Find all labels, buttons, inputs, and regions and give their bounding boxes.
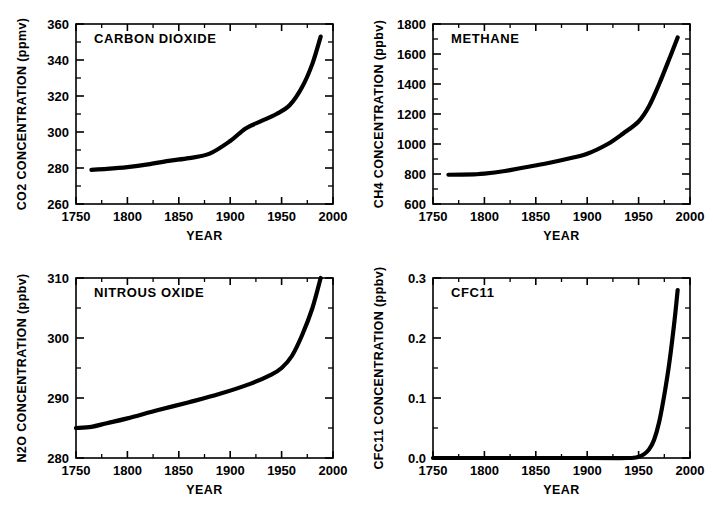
panel-title: CFC11 — [451, 285, 494, 300]
x-tick-label: 2000 — [319, 209, 348, 224]
y-tick-label: 1800 — [397, 17, 426, 32]
x-tick-label: 1850 — [164, 463, 193, 478]
x-axis-title: YEAR — [543, 229, 579, 243]
y-tick-label: 1000 — [397, 137, 426, 152]
x-axis-title: YEAR — [186, 229, 222, 243]
x-tick-label: 1800 — [470, 209, 499, 224]
panel-methane: 1750180018501900195020006008001000120014… — [357, 0, 713, 253]
x-axis-title: YEAR — [186, 483, 222, 497]
plot-frame — [433, 278, 690, 458]
y-tick-label: 0.2 — [408, 331, 426, 346]
x-tick-label: 2000 — [676, 209, 705, 224]
greenhouse-gas-figure: 1750180018501900195020002602803003203403… — [0, 0, 713, 507]
data-curve-co2 — [91, 37, 320, 170]
x-tick-label: 1900 — [573, 463, 602, 478]
plot-nitrous-oxide: 175018001850190019502000280290300310NITR… — [0, 254, 356, 507]
y-axis-title: N2O CONCENTRATION (ppbv) — [15, 273, 29, 462]
x-tick-label: 1850 — [521, 463, 550, 478]
y-tick-label: 310 — [47, 271, 69, 286]
panel-title: METHANE — [451, 31, 519, 46]
y-tick-label: 280 — [47, 161, 69, 176]
x-axis-title: YEAR — [543, 483, 579, 497]
data-curve-cfc11 — [433, 290, 678, 458]
panel-title: NITROUS OXIDE — [94, 285, 204, 300]
x-tick-label: 1850 — [521, 209, 550, 224]
x-tick-label: 1800 — [470, 463, 499, 478]
y-axis-title: CH4 CONCENTRATION (ppbv) — [372, 20, 386, 209]
data-curve-ch4 — [448, 38, 677, 175]
x-tick-label: 1850 — [164, 209, 193, 224]
plot-cfc11: 1750180018501900195020000.00.10.20.3CFC1… — [357, 254, 713, 507]
y-tick-label: 320 — [47, 89, 69, 104]
y-tick-label: 360 — [47, 17, 69, 32]
x-tick-label: 1900 — [216, 463, 245, 478]
y-tick-label: 1200 — [397, 107, 426, 122]
y-tick-label: 800 — [404, 167, 426, 182]
y-tick-label: 260 — [47, 197, 69, 212]
y-tick-label: 300 — [47, 125, 69, 140]
y-tick-label: 300 — [47, 331, 69, 346]
plot-frame — [76, 278, 333, 458]
x-tick-label: 1800 — [113, 463, 142, 478]
y-tick-label: 0.0 — [408, 451, 426, 466]
x-tick-label: 1900 — [216, 209, 245, 224]
y-tick-label: 0.3 — [408, 271, 426, 286]
data-curve-n2o — [76, 278, 321, 428]
x-tick-label: 2000 — [319, 463, 348, 478]
x-tick-label: 1900 — [573, 209, 602, 224]
y-tick-label: 1400 — [397, 77, 426, 92]
y-tick-label: 0.1 — [408, 391, 426, 406]
x-tick-label: 1950 — [624, 463, 653, 478]
y-tick-label: 600 — [404, 197, 426, 212]
y-tick-label: 280 — [47, 451, 69, 466]
panel-cfc11: 1750180018501900195020000.00.10.20.3CFC1… — [357, 254, 713, 507]
x-tick-label: 2000 — [676, 463, 705, 478]
x-tick-label: 1800 — [113, 209, 142, 224]
plot-frame — [76, 24, 333, 204]
panel-title: CARBON DIOXIDE — [94, 31, 217, 46]
y-axis-title: CFC11 CONCENTRATION (ppbv) — [372, 266, 386, 469]
x-tick-label: 1950 — [267, 209, 296, 224]
y-tick-label: 340 — [47, 53, 69, 68]
y-tick-label: 1600 — [397, 47, 426, 62]
plot-frame — [433, 24, 690, 204]
x-tick-label: 1950 — [267, 463, 296, 478]
panel-nitrous-oxide: 175018001850190019502000280290300310NITR… — [0, 254, 356, 507]
x-tick-label: 1950 — [624, 209, 653, 224]
plot-carbon-dioxide: 1750180018501900195020002602803003203403… — [0, 0, 356, 253]
y-tick-label: 290 — [47, 391, 69, 406]
plot-methane: 1750180018501900195020006008001000120014… — [357, 0, 713, 253]
panel-carbon-dioxide: 1750180018501900195020002602803003203403… — [0, 0, 356, 253]
y-axis-title: CO2 CONCENTRATION (ppmv) — [15, 18, 29, 211]
